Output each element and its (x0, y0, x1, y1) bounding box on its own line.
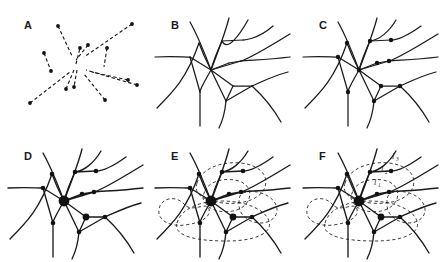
level-label-l2: l 2 (381, 165, 388, 175)
hub-vertex (59, 196, 70, 207)
level-label-l3: l 3 (392, 152, 399, 162)
level-label-l3-subscript: 3 (395, 156, 399, 162)
level-label-l1-base: l (374, 178, 377, 187)
figure-canvas: A (0, 0, 442, 262)
level-label-l1-subscript: 1 (378, 182, 381, 188)
panel-letter-c: C (319, 19, 327, 31)
cluster-contours-f (307, 163, 425, 241)
panel-letter-b: B (171, 19, 179, 31)
panel-letter-e: E (171, 150, 178, 162)
panel-letter-d: D (24, 150, 32, 162)
level-label-l2-subscript: 2 (385, 169, 388, 175)
panel-b: B (147, 0, 294, 131)
cluster-contours-e (159, 163, 277, 241)
panel-letter-f: F (319, 150, 326, 162)
panel-c: C (295, 0, 442, 131)
panel-e: E (147, 131, 294, 262)
panel-f: l 1 l 2 l 3 F (295, 131, 442, 262)
panel-letter-a: A (24, 19, 32, 31)
panel-d: D (0, 131, 147, 262)
panel-a: A (0, 0, 147, 131)
